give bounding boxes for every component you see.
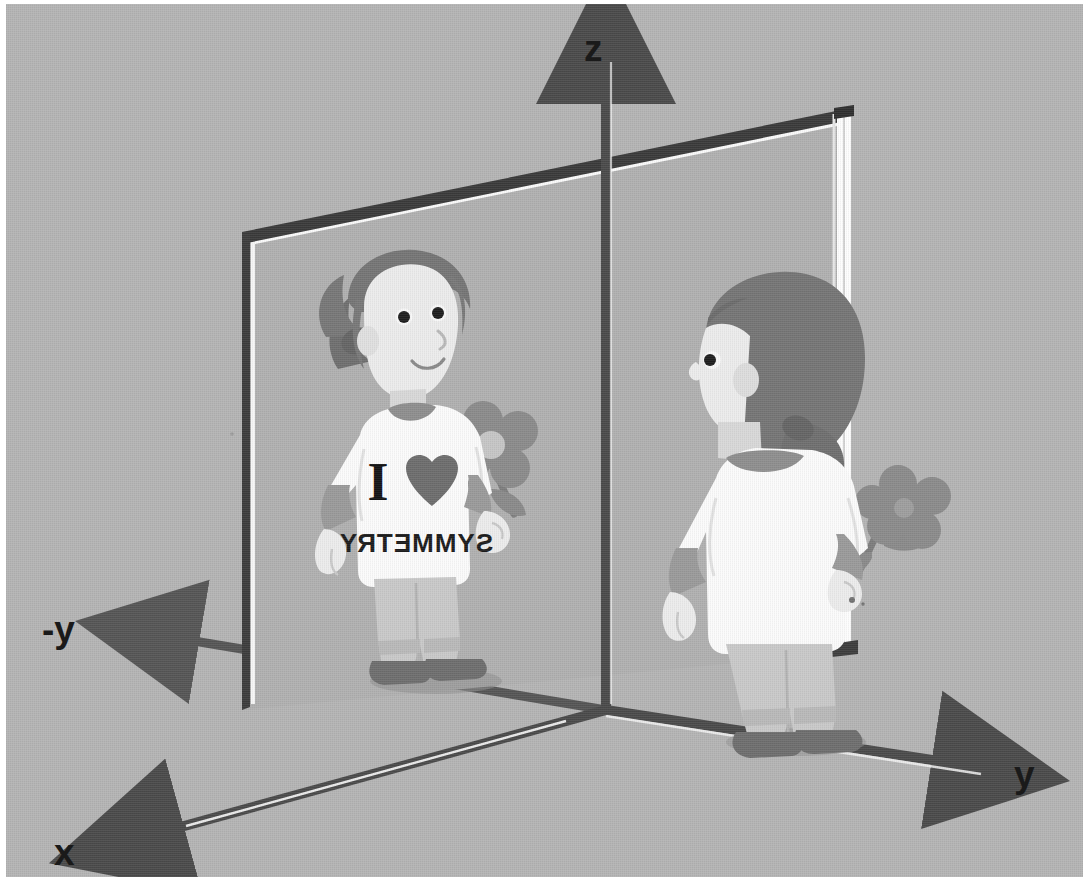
axis-z <box>606 44 611 710</box>
negative-y-axis-label: -y <box>42 609 75 651</box>
real-girl-pant-cuff-right <box>794 706 836 724</box>
reflected-girl-pant-cuff-right <box>424 637 460 653</box>
real-girl-shoe-right <box>795 730 863 754</box>
flower-center <box>894 498 914 518</box>
speck-c <box>230 432 234 436</box>
mirror-left-frame <box>242 232 250 710</box>
reflected-girl-shoe-left <box>369 661 431 685</box>
figure-root: I SYMMETRY <box>0 0 1089 893</box>
real-girl-pant-cuff-left <box>742 708 790 726</box>
mirror-symmetry-scene: I SYMMETRY <box>6 4 1083 877</box>
reflected-girl-shoe-right <box>425 659 487 681</box>
z-axis-label: z <box>584 28 603 70</box>
illustration-canvas: I SYMMETRY <box>6 4 1083 877</box>
real-girl-shoe-left <box>732 732 802 758</box>
reflected-girl-eye-left <box>398 311 410 323</box>
speck-a <box>849 597 855 603</box>
real-girl-ear <box>733 363 759 397</box>
speck-b <box>861 602 864 605</box>
shirt-letter-i: I <box>367 452 388 512</box>
reflected-girl-pant-cuff-left <box>378 639 420 655</box>
y-axis-label: y <box>1014 754 1035 796</box>
real-girl-eye <box>704 354 716 366</box>
x-axis-label: x <box>54 832 75 874</box>
reflected-girl-ear <box>357 326 379 356</box>
shirt-word-symmetry: SYMMETRY <box>339 528 493 558</box>
reflected-girl-eye-right <box>432 307 444 319</box>
